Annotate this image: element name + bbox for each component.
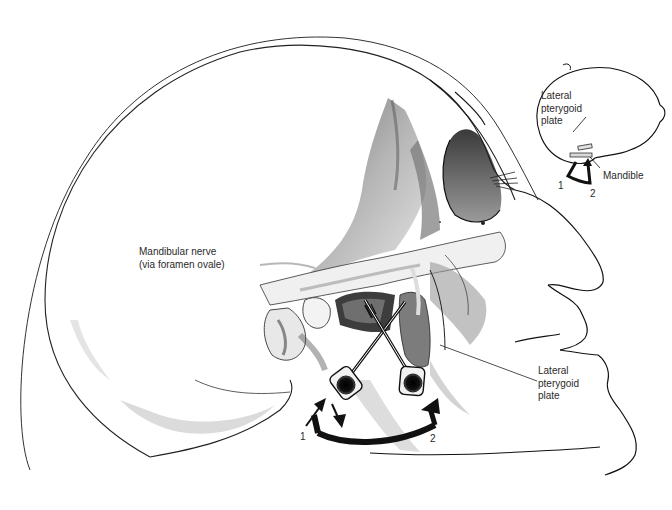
- needle-2-hub-icon: [404, 374, 422, 392]
- orbit: [443, 129, 501, 222]
- inset-position-2: 2: [590, 188, 596, 199]
- label-line: pterygoid: [541, 103, 582, 116]
- inset-label-lateral-pterygoid-plate: Lateral pterygoid plate: [541, 90, 582, 128]
- label-line: (via foramen ovale): [139, 259, 225, 272]
- label-mandibular-nerve: Mandibular nerve (via foramen ovale): [139, 246, 225, 271]
- cranial-base-shading: [70, 320, 275, 434]
- anatomical-illustration: Mandibular nerve (via foramen ovale) Lat…: [0, 0, 672, 510]
- label-line: pterygoid: [538, 378, 579, 391]
- skull-drawing: [0, 0, 672, 510]
- needle-1-hub-icon: [337, 376, 355, 394]
- label-line: plate: [541, 115, 582, 128]
- inset-label-mandible: Mandible: [603, 170, 644, 183]
- label-line: plate: [538, 390, 579, 403]
- label-lateral-pterygoid-plate: Lateral pterygoid plate: [538, 365, 579, 403]
- main-position-2: 2: [430, 433, 436, 444]
- arrow-down-icon: [332, 404, 346, 428]
- leader-line-lateral-pterygoid: [440, 345, 537, 381]
- main-position-1: 1: [300, 431, 306, 442]
- label-line: Lateral: [541, 90, 582, 103]
- face-profile: [515, 190, 636, 475]
- label-line: Lateral: [538, 365, 579, 378]
- label-line: Mandibular nerve: [139, 246, 225, 259]
- inset-position-1: 1: [558, 180, 564, 191]
